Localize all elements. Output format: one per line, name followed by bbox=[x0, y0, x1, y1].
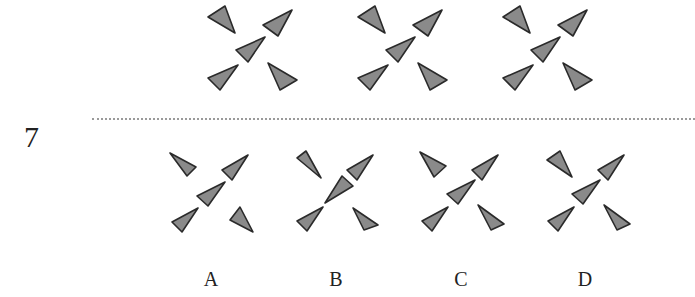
option-figure-a[interactable] bbox=[170, 153, 253, 232]
option-label-c[interactable]: C bbox=[446, 268, 476, 291]
option-figure-c[interactable] bbox=[420, 152, 504, 231]
sequence-figure-1 bbox=[208, 6, 297, 90]
option-label-b[interactable]: B bbox=[321, 268, 351, 291]
option-figure-d[interactable] bbox=[547, 151, 630, 231]
figure-canvas bbox=[0, 0, 695, 297]
option-figure-b[interactable] bbox=[297, 151, 378, 231]
option-label-d[interactable]: D bbox=[570, 268, 600, 291]
option-label-a[interactable]: A bbox=[196, 268, 226, 291]
sequence-figure-3 bbox=[503, 6, 592, 90]
sequence-figure-2 bbox=[358, 6, 447, 90]
